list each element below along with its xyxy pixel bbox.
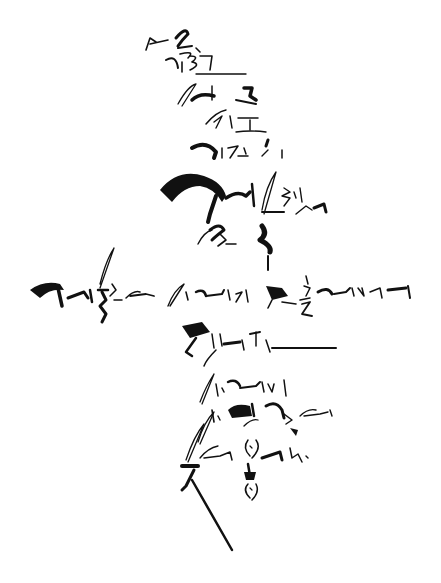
top-line-2 — [166, 56, 246, 74]
line-6-right — [262, 172, 326, 214]
line-7 — [198, 226, 270, 270]
bottom-small-circles — [244, 464, 257, 500]
big-giyeok — [160, 174, 254, 222]
line-3 — [178, 84, 256, 106]
crossing-line-left — [30, 248, 154, 322]
line-9 — [182, 322, 336, 366]
top-line-1 — [146, 31, 200, 58]
line-11 — [198, 404, 332, 444]
line-10 — [200, 374, 286, 404]
crossing-line-middle — [168, 284, 248, 306]
calligraphy-canvas — [0, 0, 441, 583]
line-5 — [192, 140, 282, 158]
bottom-siot — [182, 466, 232, 550]
line-4 — [206, 110, 266, 132]
crossing-line-right — [266, 276, 410, 316]
